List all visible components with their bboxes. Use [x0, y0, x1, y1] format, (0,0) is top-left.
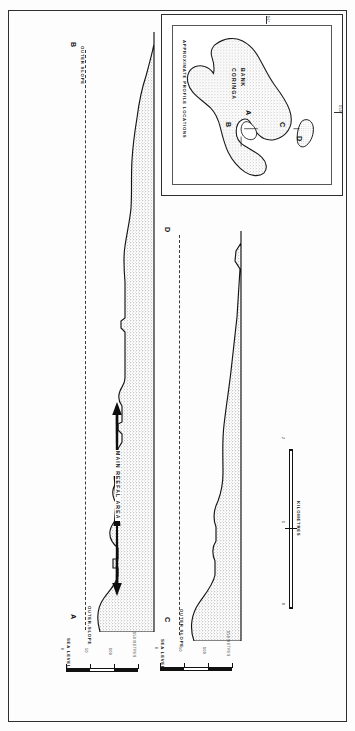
depth-tick-100 [114, 664, 115, 669]
depth-label-cd-150-metres: 150 METRES [226, 631, 230, 657]
outer-slope-label-cd: OUTER SLOPE [179, 609, 184, 648]
kilometres-scale-bar [289, 449, 293, 609]
depth-label-100: 100 [108, 648, 112, 655]
inset-point-a: A [244, 110, 253, 116]
depth-label-150-metres: 150 METRES [132, 632, 136, 658]
depth-scale-seg-100-150 [114, 668, 138, 672]
kilometres-label-2: 2 [281, 437, 285, 439]
graticule-label-lat: 16° [266, 16, 270, 23]
depth-tick-0 [66, 664, 67, 669]
sea-level-datum-ab [85, 50, 86, 630]
depth-scale-cd-seg-0-50 [160, 667, 184, 671]
sea-level-datum-cd [179, 235, 180, 635]
depth-tick-cd-100 [208, 663, 209, 668]
depth-label-50: 50 [84, 648, 88, 653]
kilometres-scale: 2 1 0 KILOMETRES [279, 449, 303, 611]
reef-massif-ab [94, 32, 156, 632]
depth-tick-cd-50 [184, 663, 185, 668]
depth-tick-50 [90, 664, 91, 669]
depth-scale-cd-seg-100-150 [208, 667, 232, 671]
main-reefal-area-label: MAIN REEFAL AREA [115, 450, 121, 521]
depth-scale-cd: 0 50 100 150 METRES [160, 661, 250, 675]
profile-section-cd: D C SEA LEVEL OUTER SLOPE [161, 205, 347, 722]
figure-plate: APPROXIMATE PROFILE LOCATIONS CORINGA BA… [0, 0, 355, 731]
kilometres-label-0: 0 [281, 603, 285, 605]
depth-scale-seg-50-100 [90, 668, 114, 672]
inset-point-d: D [295, 136, 304, 142]
kilometres-unit-label: KILOMETRES [296, 501, 301, 536]
graticule-label-lon: 150° [338, 105, 342, 114]
depth-label-cd-50: 50 [178, 647, 182, 652]
depth-tick-cd-150 [232, 663, 233, 668]
depth-label-cd-100: 100 [202, 647, 206, 654]
depth-scale-seg-0-50 [66, 668, 90, 672]
depth-tick-150 [138, 664, 139, 669]
kilometres-label-1: 1 [281, 521, 285, 523]
inset-location-map: APPROXIMATE PROFILE LOCATIONS CORINGA BA… [161, 14, 343, 196]
kilometres-scale-cap-top [289, 449, 293, 451]
profile-ab-end-a: A [69, 614, 78, 620]
inset-point-b: B [224, 122, 233, 128]
depth-scale-ab: 0 50 100 150 METRES [66, 662, 146, 676]
coringa-bank-outline [173, 26, 331, 184]
depth-label-cd-0: 0 [154, 647, 158, 649]
inset-bank-name-line2: BANK [240, 68, 246, 87]
outer-slope-label-ab-top: OUTER SLOPE [80, 46, 85, 85]
profile-cd-end-d: D [163, 227, 172, 233]
depth-tick-cd-0 [160, 663, 161, 668]
depth-scale-cd-seg-50-100 [184, 667, 208, 671]
reef-massif-cd [187, 231, 243, 641]
outer-slope-label-ab-bottom: OUTER-SLOPE [87, 606, 92, 645]
profile-cd-end-c: C [163, 617, 172, 623]
inset-bank-name-line1: CORINGA [231, 68, 237, 100]
inset-title: APPROXIMATE PROFILE LOCATIONS [182, 40, 187, 138]
profile-section-ab: B A SEA LEVEL OUTER SLOPE OUTER-SLOPE [8, 10, 160, 722]
inset-point-c: C [278, 122, 287, 128]
profile-ab-end-b: B [69, 42, 78, 48]
inset-inner-frame: APPROXIMATE PROFILE LOCATIONS CORINGA BA… [172, 25, 332, 185]
depth-label-0: 0 [60, 648, 64, 650]
kilometres-scale-cap-bottom [289, 607, 293, 609]
